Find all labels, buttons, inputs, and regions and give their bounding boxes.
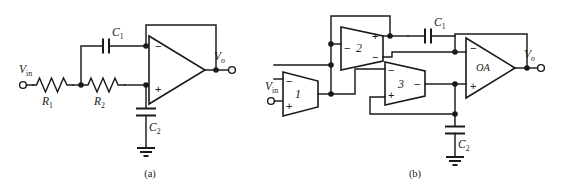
- wire-ota2-minus-out: [383, 52, 455, 57]
- capacitor-c1-label: C1: [112, 26, 124, 41]
- ota-3-label: 3: [397, 77, 404, 91]
- figure-root: Vin R1 C1 R2: [0, 0, 561, 189]
- ota-2-inverting-sign: −: [344, 42, 350, 54]
- capacitor-c1b-label: C1: [434, 16, 446, 31]
- circuit-b-group: Vin 1 − + 2 − + −: [265, 16, 544, 180]
- wire-c1b-to-oa: [431, 36, 455, 52]
- resistor-r1-label: R1: [41, 95, 53, 110]
- opamp-a-inverting-sign: −: [155, 40, 161, 52]
- opamp-oa-inverting-sign: −: [470, 42, 476, 54]
- ota-2-out-minus-sign: −: [372, 51, 378, 63]
- ground-symbol-a: [137, 148, 155, 156]
- ota-1-noninverting-sign: +: [286, 100, 292, 112]
- ota-1-label: 1: [295, 87, 301, 101]
- output-terminal-b[interactable]: [538, 65, 545, 72]
- junction-node-a-output: [213, 67, 219, 73]
- resistor-r2: [81, 78, 125, 92]
- wire-bus-to-ota3-inverting: [331, 69, 385, 94]
- input-terminal-b[interactable]: [268, 98, 275, 105]
- circuit-diagram-canvas: Vin R1 C1 R2: [0, 0, 561, 189]
- caption-a: (a): [144, 168, 156, 180]
- opamp-a-noninverting-sign: +: [155, 83, 161, 95]
- caption-b: (b): [409, 168, 422, 180]
- output-terminal-a[interactable]: [229, 67, 236, 74]
- opamp-oa-noninverting-sign: +: [470, 80, 476, 92]
- ground-symbol-b: [446, 157, 464, 165]
- input-label-b: Vin: [265, 80, 278, 95]
- resistor-r2-label: R2: [93, 95, 105, 110]
- resistor-r1: [33, 78, 73, 92]
- ota-2-out-plus-sign: +: [372, 30, 378, 42]
- input-terminal-a[interactable]: [20, 82, 27, 89]
- output-label-b: Vo: [524, 48, 535, 63]
- capacitor-c2b-label: C2: [458, 138, 470, 153]
- opamp-oa-label: OA: [476, 62, 491, 73]
- ota-1-inverting-sign: −: [286, 75, 292, 87]
- ota-2-label: 2: [356, 41, 362, 55]
- ota-3-inverting-sign: −: [388, 64, 394, 76]
- ota-3-noninverting-sign: +: [388, 89, 394, 101]
- circuit-a-group: Vin R1 C1 R2: [19, 25, 235, 180]
- input-label-a: Vin: [19, 63, 32, 78]
- junction-node-b4: [387, 33, 393, 39]
- ota-3-out-minus-sign: −: [414, 78, 420, 90]
- capacitor-c2-label: C2: [149, 121, 161, 136]
